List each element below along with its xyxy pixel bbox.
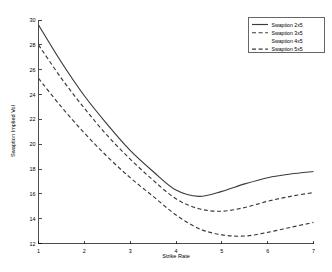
- y-tick-label: 14: [30, 216, 36, 222]
- x-tick-label: 2: [83, 248, 86, 254]
- x-axis-title: Strike Rate: [162, 253, 190, 259]
- y-tick-label: 12: [30, 241, 36, 247]
- legend-label: Swaption 5x5: [272, 46, 303, 52]
- y-axis-title: Swaption Implied Vol: [10, 105, 16, 157]
- legend-label: Swaption 3x5: [272, 30, 303, 36]
- y-tick-label: 18: [30, 166, 36, 172]
- y-tick-label: 28: [30, 42, 36, 48]
- legend-item: Swaption 4x5: [272, 38, 303, 44]
- line-chart: 12141618202224262830 1234567 Strike Rate…: [0, 0, 332, 272]
- x-tick-label: 6: [266, 248, 269, 254]
- legend-label: Swaption 4x5: [272, 38, 303, 44]
- chart-figure: 12141618202224262830 1234567 Strike Rate…: [0, 0, 332, 272]
- y-tick-label: 22: [30, 116, 36, 122]
- legend: Swaption 2x5Swaption 3x5Swaption 4x5Swap…: [249, 18, 325, 53]
- y-tick-label: 16: [30, 191, 36, 197]
- y-tick-label: 24: [30, 92, 36, 98]
- x-tick-label: 1: [37, 248, 40, 254]
- x-tick-label: 7: [312, 248, 315, 254]
- legend-label: Swaption 2x5: [272, 22, 303, 28]
- y-tick-label: 20: [30, 141, 36, 147]
- x-tick-label: 5: [220, 248, 223, 254]
- x-tick-label: 3: [129, 248, 132, 254]
- y-tick-label: 30: [30, 17, 36, 23]
- y-tick-label: 26: [30, 67, 36, 73]
